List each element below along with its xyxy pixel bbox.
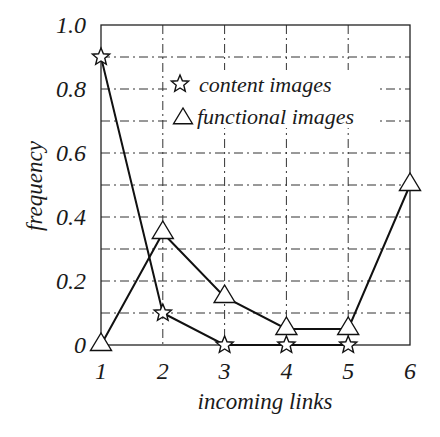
legend-label-functional-images: functional images: [197, 104, 354, 129]
y-tick-label: 0.4: [56, 204, 86, 230]
y-tick-label: 0.6: [56, 140, 86, 166]
triangle-marker-icon: [91, 333, 112, 351]
star-marker-icon: [216, 336, 233, 352]
triangle-marker-icon: [214, 285, 235, 303]
triangle-marker-icon: [338, 317, 359, 335]
y-axis-ticks: 00.20.40.60.81.0: [56, 12, 86, 358]
star-marker-icon: [340, 336, 357, 352]
x-tick-label: 6: [404, 358, 416, 384]
y-tick-label: 0: [74, 332, 86, 358]
x-tick-label: 4: [280, 358, 292, 384]
y-tick-label: 1.0: [56, 12, 86, 38]
x-axis-ticks: 123456: [95, 358, 416, 384]
legend-item-functional-images: functional images: [174, 104, 354, 129]
x-tick-label: 1: [95, 358, 107, 384]
triangle-marker-icon: [152, 221, 173, 239]
x-tick-label: 5: [342, 358, 354, 384]
y-tick-label: 0.8: [56, 76, 86, 102]
x-tick-label: 2: [157, 358, 169, 384]
x-tick-label: 3: [218, 358, 231, 384]
line-chart: 00.20.40.60.81.0 123456 incoming links f…: [0, 0, 440, 437]
star-marker-icon: [278, 336, 295, 352]
triangle-marker-icon: [400, 173, 421, 191]
series-line-functional-images: [101, 185, 410, 345]
y-tick-label: 0.2: [56, 268, 86, 294]
legend-label-content-images: content images: [199, 72, 332, 97]
x-axis-label: incoming links: [198, 389, 333, 414]
y-axis-label: frequency: [22, 140, 47, 231]
